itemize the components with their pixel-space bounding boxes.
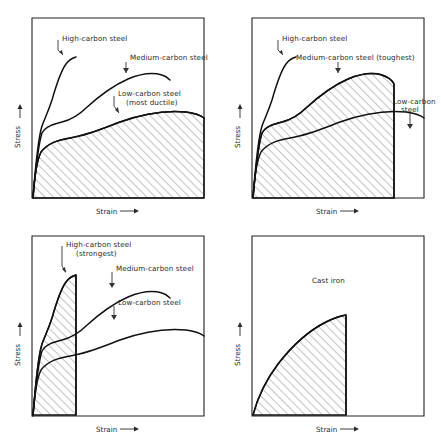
panel-4-shaded-cast-iron [253,315,346,415]
panel-3-label-high-carbon: High-carbon steel [66,240,131,249]
panel-2-y-axis-text: Stress [233,126,242,148]
panel-3-x-axis-label: Strain [96,425,139,434]
panel-3-label-low-carbon: Low-carbon steel [118,298,181,307]
panel-4: Cast iron Stress Strain [233,236,424,434]
panel-3-label-high-carbon-note: (strongest) [76,249,117,258]
panel-1-label-high-carbon: High-carbon steel [62,34,127,43]
panel-1-x-axis-text: Strain [96,207,117,216]
panel-1-label-medium-carbon: Medium-carbon steel [130,53,208,62]
panel-2-label-high-carbon: High-carbon steel [282,34,347,43]
panel-1-x-axis-label: Strain [96,207,139,216]
panel-4-y-axis-label: Stress [233,322,243,366]
panel-4-y-axis-text: Stress [233,344,242,366]
panel-1-y-axis-text: Stress [13,126,22,148]
panel-3: High-carbon steel (strongest) Medium-car… [13,236,204,434]
panel-2-x-axis-label: Strain [316,207,359,216]
panel-2-y-axis-label: Stress [233,104,243,148]
panel-4-label-cast-iron: Cast iron [312,276,345,285]
panel-2-x-axis-text: Strain [316,207,337,216]
panel-4-x-axis-text: Strain [316,425,337,434]
panel-1: High-carbon steel Medium-carbon steel Lo… [13,18,208,216]
panel-1-label-low-carbon: Low-carbon steel [118,89,181,98]
panel-4-x-axis-label: Strain [316,425,359,434]
panel-3-y-axis-label: Stress [13,322,23,366]
panel-3-shaded-high-carbon [33,275,76,415]
panel-1-label-low-carbon-note: (most ductile) [126,98,178,107]
stress-strain-figure: High-carbon steel Medium-carbon steel Lo… [0,0,441,436]
panel-1-y-axis-label: Stress [13,104,23,148]
panel-2-label-medium-carbon: Medium-carbon steel (toughest) [296,53,415,62]
panel-1-shaded-low-carbon [33,111,204,198]
panel-2: High-carbon steel Medium-carbon steel (t… [233,18,436,216]
panel-2-label-low-carbon-line2: steel [401,105,419,114]
figure-canvas: High-carbon steel Medium-carbon steel Lo… [0,0,441,436]
panel-3-x-axis-text: Strain [96,425,117,434]
panel-3-y-axis-text: Stress [13,344,22,366]
panel-3-label-medium-carbon: Medium-carbon steel [116,264,194,273]
